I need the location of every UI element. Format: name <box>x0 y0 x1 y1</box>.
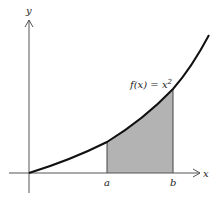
function-label-exponent: 2 <box>167 78 173 86</box>
diagram-canvas: y x a b f(x) = x2 <box>0 0 215 204</box>
shaded-area <box>107 89 173 173</box>
function-label: f(x) = x2 <box>129 78 173 90</box>
area-under-curve-diagram: y x a b f(x) = x2 <box>0 0 215 204</box>
x-axis-label: x <box>203 168 209 179</box>
bound-a-label: a <box>104 177 110 188</box>
function-label-text: f(x) = x <box>129 79 168 90</box>
bound-b-label: b <box>170 177 176 188</box>
y-axis-label: y <box>25 5 32 16</box>
